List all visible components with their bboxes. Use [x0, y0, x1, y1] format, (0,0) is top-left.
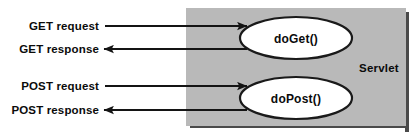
method-node-doget-label: doGet() [274, 32, 318, 46]
flow-get-response-label: GET response [19, 43, 99, 55]
method-node-doget: doGet() [240, 17, 352, 59]
servlet-container-label: Servlet [359, 62, 399, 74]
servlet-flow-diagram: GET request GET response POST request PO… [0, 0, 419, 138]
flow-get-request-label: GET request [29, 20, 99, 32]
flow-post-request-label: POST request [21, 80, 99, 92]
diagram-canvas: GET request GET response POST request PO… [0, 0, 419, 138]
method-node-dopost: doPost() [240, 77, 352, 119]
method-node-dopost-label: doPost() [271, 92, 321, 106]
flow-post-response-label: POST response [11, 104, 99, 116]
